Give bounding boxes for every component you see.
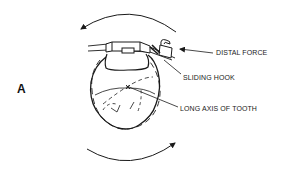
- label-long-axis: LONG AXIS OF TOOTH: [180, 105, 257, 112]
- tooth-crown: [105, 54, 148, 70]
- bracket: [106, 42, 150, 53]
- tooth-rotation-diagram: A DISTAL FORCE SLIDING HOOK LONG AXIS OF…: [0, 0, 296, 180]
- rotation-arrow-top: [81, 14, 176, 32]
- leader-distal-force: [180, 49, 213, 53]
- leader-sliding-hook: [164, 60, 181, 74]
- rotation-arrow-bottom: [87, 143, 175, 161]
- panel-letter: A: [17, 82, 26, 96]
- label-distal-force: DISTAL FORCE: [216, 49, 267, 56]
- label-sliding-hook: SLIDING HOOK: [183, 74, 235, 81]
- diagram-svg: [0, 0, 296, 180]
- tooth-internal-lines: [95, 77, 155, 112]
- leader-long-axis: [129, 87, 178, 107]
